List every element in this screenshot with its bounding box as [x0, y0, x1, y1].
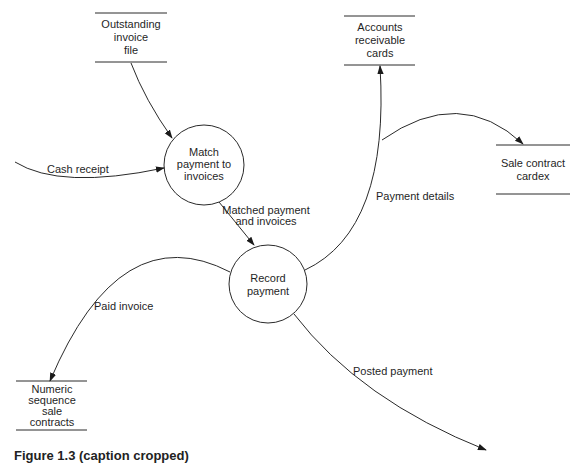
- label-line: Record: [247, 272, 289, 285]
- flow-label-paid-invoice: Paid invoice: [94, 300, 153, 313]
- label-line: cards: [355, 47, 405, 60]
- store-label-outstanding-invoice-file: Outstanding invoice file: [101, 18, 160, 57]
- flow-label-matched-payment: Matched payment and invoices: [222, 205, 309, 227]
- flow-outstanding-invoice-to-match: [131, 63, 172, 138]
- label-line: Match: [177, 146, 231, 158]
- label-line: Sale contract: [501, 157, 565, 170]
- label-line: invoice: [101, 31, 160, 44]
- flow-label-cash-receipt: Cash receipt: [47, 163, 109, 176]
- label-line: contracts: [28, 417, 76, 428]
- label-line: Accounts: [355, 21, 405, 34]
- figure-caption: Figure 1.3 (caption cropped): [14, 448, 189, 463]
- store-label-accounts-receivable-cards: Accounts receivable cards: [355, 21, 405, 60]
- store-label-sale-contract-cardex: Sale contract cardex: [501, 157, 565, 183]
- label-line: payment to: [177, 158, 231, 170]
- flow-paid-invoice: [50, 257, 230, 381]
- flow-label-payment-details: Payment details: [376, 190, 454, 203]
- process-label-match-payment: Match payment to invoices: [177, 146, 231, 182]
- store-label-numeric-sequence-sale-contracts: Numeric sequence sale contracts: [28, 384, 76, 428]
- label-line: receivable: [355, 34, 405, 47]
- label-line: and invoices: [222, 216, 309, 227]
- label-line: invoices: [177, 170, 231, 182]
- label-line: file: [101, 44, 160, 57]
- label-line: payment: [247, 285, 289, 298]
- flow-payment-details-to-ar: [305, 66, 381, 270]
- flow-payment-details-to-cardex: [382, 113, 523, 144]
- flow-label-posted-payment: Posted payment: [353, 365, 433, 378]
- label-line: Outstanding: [101, 18, 160, 31]
- flow-posted-payment: [294, 314, 486, 450]
- label-line: cardex: [501, 170, 565, 183]
- process-label-record-payment: Record payment: [247, 272, 289, 298]
